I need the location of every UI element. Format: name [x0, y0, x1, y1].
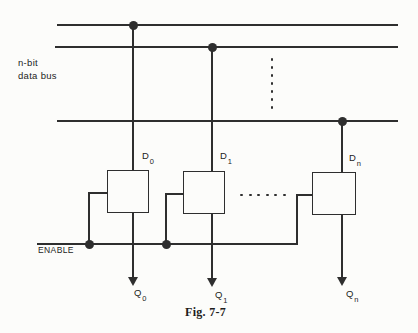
d0-label: D0: [142, 151, 154, 163]
data-line-d0: [132, 25, 134, 171]
junction-dot-enable-d0: [85, 240, 94, 249]
q1-label-sub: 1: [223, 296, 227, 305]
bus-label-line2: data bus: [18, 69, 57, 82]
junction-dot-bus1: [129, 21, 138, 30]
d0-label-sub: 0: [150, 157, 154, 166]
bus-line-1: [57, 24, 398, 26]
data-line-dn: [341, 121, 343, 173]
bus-label-line1: n-bit: [18, 56, 57, 69]
output-line-q0: [132, 212, 134, 278]
qn-label-sub: n: [354, 295, 358, 304]
q1-label: Q1: [215, 290, 227, 302]
bus-label: n-bit data bus: [18, 56, 57, 82]
latch-box-dn: [312, 172, 356, 215]
circuit-diagram: n-bit data bus ENABLE D0 D1 Dn Q0 Q1 Qn …: [0, 0, 418, 333]
bus-line-2: [55, 46, 398, 48]
bus-line-3: [57, 120, 398, 122]
enable-branch-d1-vertical: [165, 193, 167, 244]
junction-dot-enable-d1: [162, 240, 171, 249]
enable-branch-d0-vertical: [88, 192, 90, 244]
output-line-q1: [211, 213, 213, 279]
q1-arrowhead-icon: [207, 278, 217, 287]
d1-label: D1: [220, 151, 232, 163]
qn-arrowhead-icon: [337, 277, 347, 286]
q0-arrowhead-icon: [128, 277, 138, 286]
qn-label: Qn: [346, 289, 358, 301]
junction-dot-bus2: [208, 43, 217, 52]
q0-label-base: Q: [134, 287, 142, 298]
dn-label-sub: n: [357, 159, 361, 168]
enable-branch-d1-horizontal: [165, 193, 184, 195]
enable-branch-dn-vertical: [296, 194, 298, 244]
qn-label-base: Q: [346, 288, 354, 299]
figure-caption: Fig. 7-7: [185, 305, 226, 320]
q1-label-base: Q: [215, 289, 223, 300]
data-line-d1: [211, 47, 213, 172]
enable-branch-dn-horizontal: [296, 194, 313, 196]
d0-label-base: D: [142, 150, 149, 161]
dn-label: Dn: [349, 153, 361, 165]
junction-dot-bus3: [338, 117, 347, 126]
d1-label-base: D: [220, 150, 227, 161]
latch-box-d0: [107, 170, 149, 213]
q0-label-sub: 0: [142, 294, 146, 303]
dn-label-base: D: [349, 152, 356, 163]
latch-box-d1: [183, 171, 225, 214]
output-line-qn: [341, 214, 343, 278]
d1-label-sub: 1: [228, 157, 232, 166]
enable-branch-d0-horizontal: [88, 192, 108, 194]
q0-label: Q0: [134, 288, 146, 300]
enable-label: ENABLE: [38, 246, 74, 255]
